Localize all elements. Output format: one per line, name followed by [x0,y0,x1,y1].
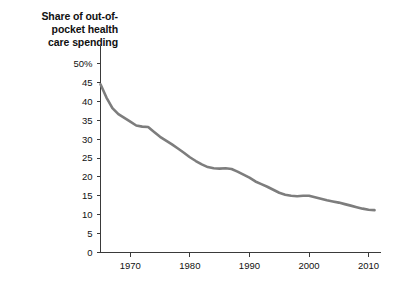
y-tick-label: 0 [87,247,92,258]
x-tick-label: 2010 [358,260,379,271]
y-tick-label: 45 [82,77,93,88]
line-chart-plot: 05101520253035404550% 197019801990200020… [0,0,401,282]
x-tick-label: 1990 [239,260,260,271]
data-series [101,84,375,210]
y-tick-label: 25 [82,152,93,163]
y-tick-label: 35 [82,115,93,126]
x-tick-label: 1970 [120,260,141,271]
series-line [101,84,375,210]
x-tick-label: 1980 [179,260,200,271]
y-tick-label: 15 [82,190,93,201]
y-tick-label: 20 [82,171,93,182]
y-tick-label: 5 [87,228,92,239]
y-tick-label: 50% [73,58,93,69]
y-tick-label: 40 [82,96,93,107]
y-tick-label: 30 [82,134,93,145]
y-axis: 05101520253035404550% [73,46,100,258]
x-tick-label: 2000 [298,260,319,271]
chart-container: Share of out-of- pocket health care spen… [0,0,401,282]
x-axis: 19701980199020002010 [101,253,381,271]
y-tick-label: 10 [82,209,93,220]
